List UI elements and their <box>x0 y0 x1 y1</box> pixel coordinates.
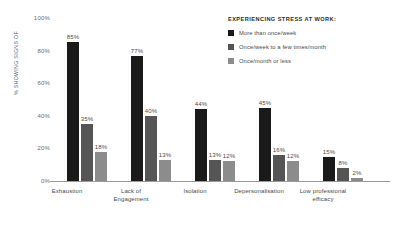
legend-item-once-month-or-less[interactable]: Once/month or less <box>228 58 396 64</box>
x-label-line-1: Isolation <box>183 188 206 194</box>
bar-value-label: 45% <box>259 100 271 106</box>
bar[interactable] <box>351 178 363 181</box>
bar-value-label: 12% <box>223 153 235 159</box>
bar[interactable] <box>323 157 335 181</box>
bar[interactable] <box>195 109 207 181</box>
bar-value-label: 12% <box>287 153 299 159</box>
legend-item-more-than-once-week[interactable]: More than once/week <box>228 30 396 36</box>
x-label-line-1: Depersonalisation <box>234 188 284 194</box>
legend-title: EXPERIENCING STRESS AT WORK: <box>228 16 396 22</box>
bar[interactable] <box>273 155 285 181</box>
bar[interactable] <box>159 160 171 181</box>
bar[interactable] <box>81 124 93 181</box>
bar-value-label: 16% <box>273 147 285 153</box>
bar[interactable] <box>145 116 157 181</box>
bar-value-label: 2% <box>353 170 362 176</box>
bar-value-label: 8% <box>339 160 348 166</box>
bar-group: 77%40%13% <box>131 18 171 181</box>
bar-value-label: 18% <box>95 144 107 150</box>
bar[interactable] <box>67 42 79 181</box>
x-label-line-2: Engagement <box>113 196 148 202</box>
bar-column[interactable]: 40% <box>145 18 157 181</box>
bar[interactable] <box>95 152 107 181</box>
x-label-line-1: Exhaustion <box>52 188 83 194</box>
legend-swatch-icon <box>228 58 234 64</box>
y-axis-tick-0: 0% <box>18 178 50 184</box>
bar[interactable] <box>337 168 349 181</box>
y-axis-title: % SHOWING SIGNS OF <box>13 3 19 123</box>
x-label-line-2: efficacy <box>312 196 333 202</box>
bar-value-label: 13% <box>209 152 221 158</box>
bar-value-label: 15% <box>323 149 335 155</box>
legend-swatch-icon <box>228 30 234 36</box>
bar-chart: % SHOWING SIGNS OF 100% 80% 60% 40% 20% … <box>0 0 401 226</box>
bar-column[interactable]: 85% <box>67 18 79 181</box>
x-axis-label-low-professional-efficacy: Low professional efficacy <box>283 188 363 203</box>
bar-value-label: 85% <box>67 34 79 40</box>
bar-column[interactable]: 35% <box>81 18 93 181</box>
bar[interactable] <box>287 161 299 181</box>
y-axis-tick-100: 100% <box>18 15 50 21</box>
legend-swatch-icon <box>228 44 234 50</box>
bar[interactable] <box>131 56 143 182</box>
x-label-line-1: Low professional <box>300 188 347 194</box>
bar-value-label: 35% <box>81 116 93 122</box>
bar[interactable] <box>209 160 221 181</box>
y-axis-tick-20: 20% <box>18 145 50 151</box>
bar-column[interactable]: 44% <box>195 18 207 181</box>
bar-column[interactable]: 13% <box>159 18 171 181</box>
x-axis-line <box>50 181 390 182</box>
bar[interactable] <box>223 161 235 181</box>
y-axis-tick-80: 80% <box>18 48 50 54</box>
x-label-line-1: Lack of <box>121 188 141 194</box>
bar-value-label: 13% <box>159 152 171 158</box>
bar-column[interactable]: 18% <box>95 18 107 181</box>
legend-item-once-week-to-a-few-times-month[interactable]: Once/week to a few times/month <box>228 44 396 50</box>
y-axis-tick-40: 40% <box>18 113 50 119</box>
legend-item-label: Once/week to a few times/month <box>239 44 326 50</box>
bar-column[interactable]: 77% <box>131 18 143 181</box>
bar[interactable] <box>259 108 271 181</box>
bar-group: 85%35%18% <box>67 18 107 181</box>
bar-value-label: 77% <box>131 48 143 54</box>
legend: EXPERIENCING STRESS AT WORK: More than o… <box>228 16 396 72</box>
bar-value-label: 40% <box>145 108 157 114</box>
bar-value-label: 44% <box>195 101 207 107</box>
legend-item-label: More than once/week <box>239 30 296 36</box>
bar-column[interactable]: 13% <box>209 18 221 181</box>
y-axis-tick-60: 60% <box>18 80 50 86</box>
legend-item-label: Once/month or less <box>239 58 291 64</box>
